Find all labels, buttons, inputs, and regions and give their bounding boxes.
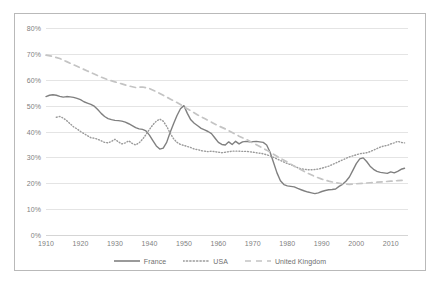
legend-label-united-kingdom: United Kingdom bbox=[275, 258, 326, 265]
chart-figure: 0%10%20%30%40%50%60%70%80% 1910192019301… bbox=[14, 13, 426, 271]
y-axis-tick-label: 0% bbox=[31, 232, 41, 239]
x-axis-tick-label: 1940 bbox=[141, 240, 157, 247]
y-axis-tick-label: 80% bbox=[27, 25, 41, 32]
x-axis-tick-label: 2010 bbox=[383, 240, 399, 247]
y-axis-tick-label: 40% bbox=[27, 128, 41, 135]
legend-swatch-france bbox=[114, 257, 140, 265]
y-axis-tick-label: 30% bbox=[27, 154, 41, 161]
legend-label-france: France bbox=[144, 258, 166, 265]
legend-swatch-united-kingdom bbox=[245, 257, 271, 265]
x-axis-tick-label: 1960 bbox=[210, 240, 226, 247]
y-axis-tick-label: 50% bbox=[27, 102, 41, 109]
series-lines bbox=[46, 28, 408, 235]
x-axis-tick-label: 1990 bbox=[314, 240, 330, 247]
legend-item-france: France bbox=[114, 257, 166, 265]
x-axis-tick-label: 1980 bbox=[279, 240, 295, 247]
legend-item-united-kingdom: United Kingdom bbox=[245, 257, 326, 265]
y-axis-tick-label: 20% bbox=[27, 180, 41, 187]
gridline bbox=[46, 235, 408, 236]
x-axis-tick-label: 1930 bbox=[107, 240, 123, 247]
x-axis-tick-label: 1970 bbox=[245, 240, 261, 247]
x-axis-tick-label: 2000 bbox=[348, 240, 364, 247]
legend-item-usa: USA bbox=[183, 257, 228, 265]
chart-legend: France USA United Kingdom bbox=[15, 257, 425, 265]
x-axis-tick-label: 1910 bbox=[38, 240, 54, 247]
y-axis-tick-label: 70% bbox=[27, 50, 41, 57]
x-axis-tick-label: 1920 bbox=[72, 240, 88, 247]
y-axis-tick-label: 10% bbox=[27, 206, 41, 213]
series-line-france bbox=[46, 95, 405, 194]
y-axis-tick-label: 60% bbox=[27, 76, 41, 83]
series-line-united-kingdom bbox=[46, 55, 405, 184]
legend-label-usa: USA bbox=[213, 258, 228, 265]
legend-swatch-usa bbox=[183, 257, 209, 265]
plot-area: 0%10%20%30%40%50%60%70%80% 1910192019301… bbox=[46, 28, 408, 235]
x-axis-tick-label: 1950 bbox=[176, 240, 192, 247]
